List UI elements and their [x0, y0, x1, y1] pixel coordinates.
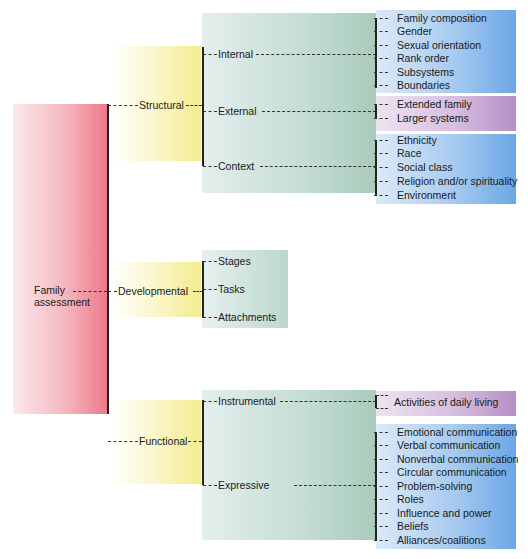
internal-connector	[203, 54, 217, 55]
context-connector	[203, 166, 217, 167]
list-item: Extended family	[382, 98, 472, 110]
internal-items-line	[375, 18, 377, 88]
functional-connector	[108, 441, 138, 442]
external-label: External	[218, 105, 257, 117]
developmental-connector	[108, 291, 117, 292]
root-band	[13, 104, 107, 414]
instrumental-label: Instrumental	[218, 395, 276, 407]
structural-vertical-line	[202, 47, 204, 166]
expressive-out-connector	[294, 485, 376, 486]
tasks-label: Tasks	[218, 283, 245, 295]
developmental-label: Developmental	[118, 285, 188, 297]
attachments-label: Attachments	[218, 311, 276, 323]
instrumental-tick-top	[376, 395, 388, 396]
list-item: Subsystems	[382, 66, 454, 78]
structural-connector	[108, 105, 138, 106]
list-item: Rank order	[382, 52, 449, 64]
stages-connector	[203, 261, 217, 262]
list-item: Religion and/or spirituality	[382, 175, 517, 187]
list-item: Problem-solving	[382, 480, 472, 492]
list-item: Activities of daily living	[394, 396, 498, 408]
list-item: Gender	[382, 25, 432, 37]
functional-label: Functional	[139, 435, 187, 447]
functional-out-connector	[188, 441, 202, 442]
instrumental-out-connector	[280, 401, 376, 402]
root-connector	[73, 291, 107, 292]
external-out-connector	[262, 111, 376, 112]
list-item: Beliefs	[382, 520, 429, 532]
list-item: Roles	[382, 493, 424, 505]
context-label: Context	[218, 160, 254, 172]
list-item: Larger systems	[382, 112, 469, 124]
root-label-line1: Family assessment	[34, 284, 84, 308]
tasks-connector	[203, 289, 217, 290]
structural-label: Structural	[139, 99, 184, 111]
list-item: Verbal communication	[382, 439, 500, 451]
list-item: Influence and power	[382, 507, 492, 519]
list-item: Social class	[382, 161, 452, 173]
instrumental-connector	[203, 401, 217, 402]
list-item: Boundaries	[382, 79, 450, 91]
instrumental-items-line	[375, 395, 377, 408]
internal-out-connector	[256, 54, 376, 55]
external-connector	[203, 111, 217, 112]
root-vertical-line	[107, 104, 109, 414]
context-out-connector	[260, 166, 376, 167]
expressive-label: Expressive	[218, 479, 269, 491]
list-item: Family composition	[382, 12, 487, 24]
list-item: Environment	[382, 189, 456, 201]
attachments-connector	[203, 317, 217, 318]
internal-label: Internal	[218, 48, 253, 60]
external-items-line	[375, 104, 377, 118]
list-item: Emotional communication	[382, 426, 517, 438]
list-item: Circular communication	[382, 466, 507, 478]
list-item: Sexual orientation	[382, 39, 481, 51]
functional-sub-band	[202, 390, 376, 540]
expressive-connector	[203, 485, 217, 486]
stages-label: Stages	[218, 255, 251, 267]
instrumental-tick-bottom	[376, 408, 388, 409]
structural-out-connector	[186, 105, 202, 106]
functional-vertical-line	[202, 400, 204, 485]
list-item: Nonverbal communication	[382, 453, 518, 465]
list-item: Alliances/coalitions	[382, 534, 486, 546]
list-item: Ethnicity	[382, 134, 437, 146]
list-item: Race	[382, 147, 422, 159]
